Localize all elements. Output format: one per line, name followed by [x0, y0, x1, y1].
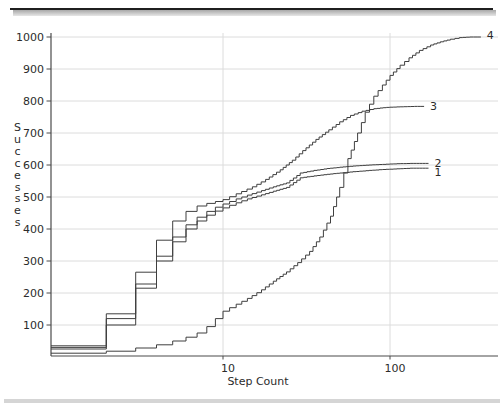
y-tick-label: 800	[10, 96, 44, 107]
y-tick-label: 1000	[10, 32, 44, 43]
y-axis-title-letter: c	[14, 146, 20, 158]
x-axis-title: Step Count	[208, 375, 308, 388]
y-axis-title: Successes	[11, 122, 24, 229]
curve-1	[51, 168, 429, 349]
y-tick-label: 300	[10, 256, 44, 267]
y-tick-label: 100	[10, 320, 44, 331]
x-tick-label: 10	[208, 363, 248, 374]
curve-label-3: 3	[430, 100, 437, 113]
y-axis-title-letter: s	[15, 217, 21, 229]
curve-label-2: 2	[434, 157, 441, 170]
curve-3	[51, 106, 424, 345]
y-tick-label: 200	[10, 288, 44, 299]
y-axis-title-letter: e	[14, 170, 21, 182]
curve-2	[51, 163, 429, 347]
curve-label-4: 4	[487, 29, 494, 42]
y-axis-title-letter: c	[14, 158, 20, 170]
chart-canvas	[0, 0, 500, 406]
x-tick-label: 100	[375, 363, 415, 374]
y-tick-label: 900	[10, 64, 44, 75]
curve-4	[51, 37, 481, 353]
